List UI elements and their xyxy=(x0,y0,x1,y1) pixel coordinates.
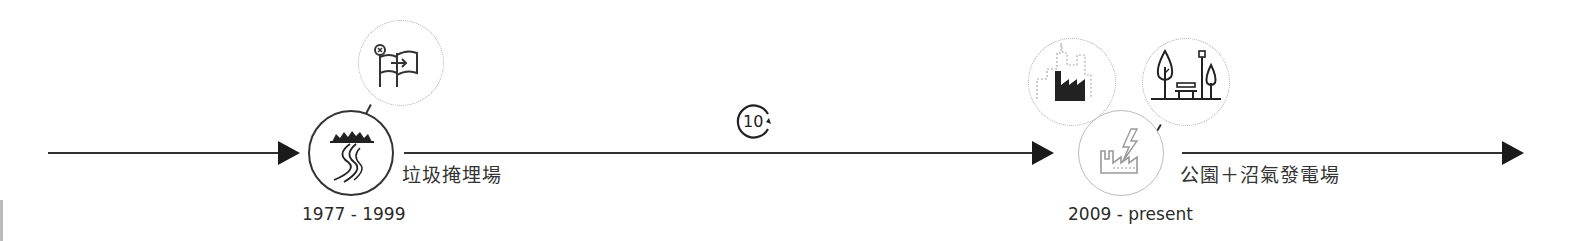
stage-node-park-power[interactable] xyxy=(1078,110,1164,196)
timeline-line-end xyxy=(1182,152,1512,154)
stage-label-landfill: 垃圾掩埋場 xyxy=(402,160,502,187)
timeline-line-start xyxy=(48,152,288,154)
river-landfill-icon xyxy=(310,112,392,194)
stage-period-landfill: 1977 - 1999 xyxy=(302,204,405,224)
edge-marker xyxy=(0,200,3,241)
stage-node-landfill[interactable] xyxy=(308,110,394,196)
timeline-line-middle xyxy=(404,152,1034,154)
stage-period-park-power: 2009 - present xyxy=(1068,204,1193,224)
arrowhead-2 xyxy=(1032,141,1054,165)
arrowhead-1 xyxy=(278,141,300,165)
flag-relocation-icon xyxy=(359,21,445,107)
linked-icon-circle-flag xyxy=(358,20,444,106)
interval-value: 10 xyxy=(743,112,763,131)
arrowhead-end xyxy=(1502,141,1524,165)
interval-badge: 10 xyxy=(734,100,780,146)
factory-power-icon xyxy=(1079,111,1163,195)
stage-label-park-power: 公園＋沼氣發電場 xyxy=(1180,160,1340,187)
